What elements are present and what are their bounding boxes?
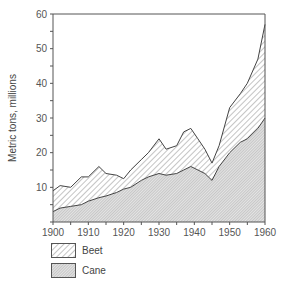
x-tick-label: 1940 — [183, 227, 206, 238]
beet-swatch-icon — [51, 243, 76, 258]
x-tick-label: 1920 — [113, 227, 136, 238]
sugar-production-chart: 102030405060 190019101920193019401950196… — [0, 0, 288, 289]
legend-item-beet: Beet — [51, 241, 106, 259]
y-tick-label: 20 — [36, 147, 48, 158]
x-tick-label: 1950 — [219, 227, 242, 238]
x-tick-label: 1910 — [77, 227, 100, 238]
legend: Beet Cane — [51, 241, 106, 281]
legend-item-cane: Cane — [51, 261, 106, 279]
x-tick-label: 1960 — [254, 227, 277, 238]
y-tick-label: 30 — [36, 113, 48, 124]
y-tick-label: 60 — [36, 9, 48, 20]
y-axis-title: Metric tons, millions — [7, 74, 18, 162]
x-tick-label: 1930 — [148, 227, 171, 238]
y-ticks: 102030405060 — [36, 9, 53, 223]
legend-label-beet: Beet — [82, 245, 103, 256]
x-ticks: 1900191019201930194019501960 — [42, 222, 277, 238]
cane-swatch-icon — [51, 263, 76, 278]
legend-label-cane: Cane — [82, 265, 106, 276]
plot-areas — [53, 24, 265, 222]
y-tick-label: 10 — [36, 182, 48, 193]
y-tick-label: 50 — [36, 43, 48, 54]
x-tick-label: 1900 — [42, 227, 65, 238]
y-tick-label: 40 — [36, 78, 48, 89]
